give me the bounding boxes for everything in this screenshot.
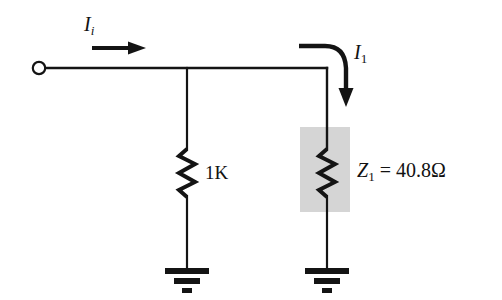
circuit-schematic — [0, 0, 502, 300]
impedance-equals: = — [380, 159, 391, 181]
resistor-1k-icon — [179, 149, 195, 197]
input-current-arrow-icon — [92, 42, 146, 55]
branch-current-subscript: 1 — [361, 51, 368, 66]
impedance-subscript: 1 — [368, 169, 375, 184]
resistor-1k-value: 1K — [205, 162, 228, 183]
impedance-z1-label: Z1 = 40.8Ω — [357, 160, 446, 183]
resistor-1k-label: 1K — [205, 163, 228, 182]
input-terminal-icon — [33, 62, 45, 74]
circuit-diagram-canvas: Ii I1 1K Z1 = 40.8Ω — [0, 0, 502, 300]
impedance-unit: Ω — [431, 159, 446, 181]
impedance-symbol: Z — [357, 159, 368, 181]
ground-left-icon — [165, 268, 209, 293]
impedance-value: 40.8 — [396, 159, 431, 181]
branch-current-label: I1 — [354, 42, 367, 65]
input-current-subscript: i — [91, 23, 95, 38]
branch-current-symbol: I — [354, 41, 361, 63]
ground-right-icon — [305, 268, 349, 293]
input-current-label: Ii — [84, 14, 94, 37]
input-current-symbol: I — [84, 13, 91, 35]
